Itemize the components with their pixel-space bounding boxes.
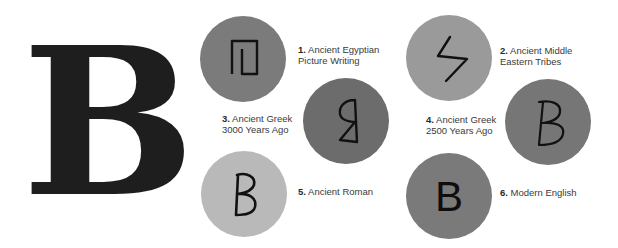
greek-3000-beta-icon xyxy=(303,78,389,164)
stage-2-circle xyxy=(406,15,492,101)
modern-b-icon: B xyxy=(406,153,492,239)
stage-1-circle xyxy=(200,16,286,102)
greek-2500-b-icon xyxy=(505,79,591,165)
stage-3-circle xyxy=(303,78,389,164)
stage-3-label: 3. Ancient Greek 3000 Years Ago xyxy=(222,113,292,135)
roman-b-icon xyxy=(201,151,287,237)
stage-2-label: 2. Ancient Middle Eastern Tribes xyxy=(500,45,572,67)
large-letter-b: B xyxy=(22,20,195,225)
stage-6-circle: B xyxy=(406,153,492,239)
egyptian-house-icon xyxy=(200,16,286,102)
svg-text:B: B xyxy=(435,173,463,220)
stage-4-circle xyxy=(505,79,591,165)
stage-4-label: 4. Ancient Greek 2500 Years Ago xyxy=(426,114,496,136)
stage-5-circle xyxy=(201,151,287,237)
stage-1-label: 1. Ancient Egyptian Picture Writing xyxy=(298,44,379,66)
middle-eastern-beth-icon xyxy=(406,15,492,101)
stage-6-label: 6. Modern English xyxy=(500,187,577,198)
stage-5-label: 5. Ancient Roman xyxy=(298,186,373,197)
